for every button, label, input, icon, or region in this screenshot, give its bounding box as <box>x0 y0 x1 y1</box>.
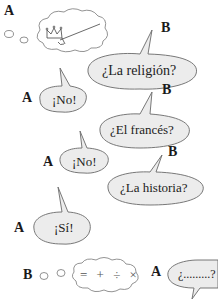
speaker-a: A <box>4 3 14 19</box>
bubble-text-no-2: ¡No! <box>72 154 97 170</box>
speaker-b: B <box>168 144 177 160</box>
speaker-a: A <box>22 90 32 106</box>
speaker-b: B <box>162 82 171 98</box>
bubbles-layer <box>0 0 218 299</box>
speaker-b: B <box>161 20 170 36</box>
thought-bubble-a <box>5 9 108 52</box>
speaker-a: A <box>14 220 24 236</box>
bubble-text-no-1: ¡No! <box>52 92 77 108</box>
bubble-text-religion: ¿La religión? <box>102 63 176 79</box>
math-symbols: = + ÷ × <box>80 267 140 283</box>
speaker-a: A <box>43 154 53 170</box>
speaker-b: B <box>23 267 32 283</box>
speech-bubble-frances <box>100 92 190 148</box>
bubble-text-historia: ¿La historia? <box>120 180 188 196</box>
bubble-text-si: ¡Sí! <box>54 220 74 236</box>
bubble-text-frances: ¿El francés? <box>110 122 174 138</box>
speaker-a: A <box>151 264 161 280</box>
bubble-text-question: ¿.........? <box>178 267 216 282</box>
